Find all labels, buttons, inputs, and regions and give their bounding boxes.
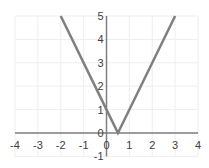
- x-tick-label: -2: [56, 139, 66, 151]
- chart: -4-3-2-101234-1123450: [0, 0, 209, 168]
- data-series: [61, 16, 175, 133]
- x-tick-label: 3: [172, 139, 178, 151]
- x-tick-label: 2: [149, 139, 155, 151]
- x-tick-label: 1: [126, 139, 132, 151]
- y-tick-label: 5: [97, 10, 103, 22]
- x-tick-label: -4: [10, 139, 20, 151]
- x-tick-label: -1: [79, 139, 89, 151]
- x-tick-label: 4: [195, 139, 201, 151]
- x-tick-label: -3: [33, 139, 43, 151]
- y-tick-label: -1: [94, 150, 104, 162]
- y-tick-label: 0: [97, 127, 103, 139]
- x-tick-label: 0: [103, 139, 109, 151]
- series-line: [61, 16, 175, 133]
- y-tick-label: 4: [97, 33, 103, 45]
- y-tick-label: 3: [97, 57, 103, 69]
- y-tick-label: 1: [97, 104, 103, 116]
